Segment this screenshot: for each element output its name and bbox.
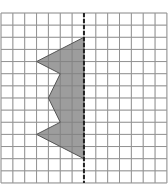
symmetry-grid-diagram	[0, 0, 168, 188]
